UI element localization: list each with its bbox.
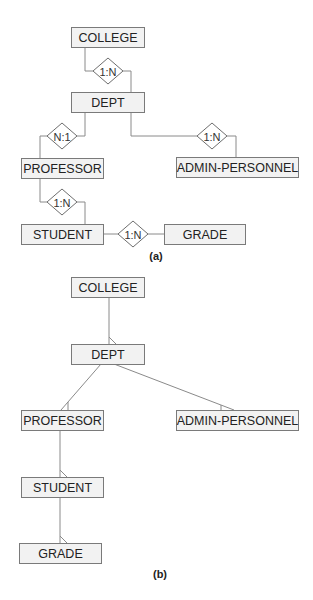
entity-label: ADMIN-PERSONNEL <box>177 161 299 175</box>
link-professor-student <box>60 430 67 477</box>
entity-label: PROFESSOR <box>23 414 102 428</box>
entity-dept: DEPT <box>72 345 145 365</box>
entity-admin-personnel: ADMIN-PERSONNEL <box>177 411 299 431</box>
cardinality-label: 1:N <box>53 197 70 209</box>
many-marker-icon <box>60 470 67 477</box>
link-dept-admin <box>114 364 234 410</box>
cardinality-label: 1:N <box>203 131 220 143</box>
link-student-grade <box>60 497 67 543</box>
many-marker-icon <box>60 536 67 543</box>
diagram-b-hierarchical-notation: COLLEGEDEPTPROFESSORADMIN-PERSONNELSTUDE… <box>20 278 299 564</box>
entity-dept: DEPT <box>72 93 145 113</box>
cardinality-label: N:1 <box>53 131 70 143</box>
entity-label: DEPT <box>91 96 125 110</box>
relationship-student-grade: 1:N <box>103 221 164 247</box>
entity-label: STUDENT <box>33 481 92 495</box>
entity-professor: PROFESSOR <box>22 159 104 179</box>
link-college-dept <box>109 297 116 344</box>
link-dept-professor <box>61 364 101 410</box>
entity-admin-personnel: ADMIN-PERSONNEL <box>177 158 299 178</box>
entity-college: COLLEGE <box>72 278 145 298</box>
entity-student: STUDENT <box>22 478 104 498</box>
entity-college: COLLEGE <box>72 28 145 48</box>
entity-label: DEPT <box>91 348 125 362</box>
entity-label: GRADE <box>183 228 227 242</box>
caption-a: (a) <box>149 250 163 262</box>
entity-student: STUDENT <box>22 225 104 245</box>
entity-label: GRADE <box>38 547 82 561</box>
cardinality-label: 1:N <box>99 66 116 78</box>
entity-grade: GRADE <box>20 544 102 564</box>
entity-label: COLLEGE <box>78 281 137 295</box>
relationship-college-dept: 1:N <box>85 47 131 92</box>
diagram-a-er-notation: 1:NN:11:N1:N1:NCOLLEGEDEPTPROFESSORADMIN… <box>22 28 299 248</box>
entity-label: STUDENT <box>33 228 92 242</box>
entity-professor: PROFESSOR <box>22 411 104 431</box>
connector-line <box>114 364 234 410</box>
cardinality-label: 1:N <box>124 229 141 241</box>
caption-b: (b) <box>153 568 167 580</box>
entity-label: COLLEGE <box>78 31 137 45</box>
entity-label: PROFESSOR <box>23 162 102 176</box>
diagram-svg: 1:NN:11:N1:N1:NCOLLEGEDEPTPROFESSORADMIN… <box>0 0 313 600</box>
relationship-dept-admin: 1:N <box>131 112 236 157</box>
relationship-dept-professor: N:1 <box>40 112 85 158</box>
entity-grade: GRADE <box>165 225 246 245</box>
relationship-professor-student: 1:N <box>40 178 85 224</box>
er-diagram-figure: 1:NN:11:N1:N1:NCOLLEGEDEPTPROFESSORADMIN… <box>0 0 313 600</box>
connector-line <box>61 364 101 410</box>
entity-label: ADMIN-PERSONNEL <box>177 414 299 428</box>
many-marker-icon <box>109 337 116 344</box>
